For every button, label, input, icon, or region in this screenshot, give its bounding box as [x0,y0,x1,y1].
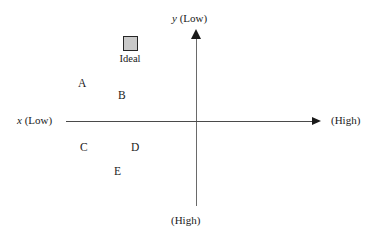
data-point-e: E [114,165,121,178]
ideal-marker: Ideal [110,36,150,65]
y-axis-high-label: (High) [171,214,200,227]
y-axis-low-label: y (Low) [172,12,207,25]
data-point-a: A [78,77,86,90]
x-axis-high-label: (High) [331,114,360,127]
x-axis-arrow-right-icon [312,117,321,125]
y-axis-low-text: (Low) [177,12,207,24]
x-axis-line [66,121,313,122]
y-axis-arrow-up-icon [191,29,201,39]
data-point-b: B [118,89,126,102]
data-point-d: D [131,141,139,154]
x-axis-low-text: (Low) [22,114,52,126]
positioning-map-figure: y (Low) (High) x (Low) (High) Ideal A B … [0,0,380,236]
x-axis-low-label: x (Low) [17,114,52,127]
y-axis-line [196,39,197,206]
ideal-square-icon [123,36,138,51]
ideal-marker-label: Ideal [110,53,150,65]
data-point-c: C [80,141,88,154]
